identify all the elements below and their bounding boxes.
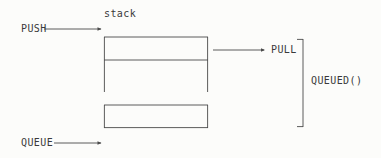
diagram-canvas: stack PUSH PULL QUEUED() QUEUE [0, 0, 381, 158]
pull-label: PULL [271, 45, 297, 55]
queued-brace [297, 39, 303, 127]
pull-arrow [213, 48, 265, 51]
pull-arrow-head [261, 48, 265, 51]
queue-label: QUEUE [21, 138, 53, 148]
queued-label: QUEUED() [311, 76, 362, 86]
push-arrow [44, 27, 102, 30]
queue-arrow-head [98, 141, 102, 144]
queue-box [104, 105, 208, 128]
push-arrow-head [98, 27, 102, 30]
stack-box [104, 37, 208, 92]
push-label: PUSH [21, 24, 47, 34]
queue-arrow [54, 141, 102, 144]
stack-label: stack [104, 9, 136, 19]
